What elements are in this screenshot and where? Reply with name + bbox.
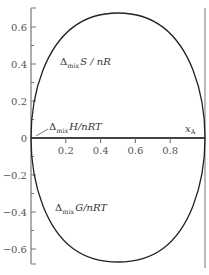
y-tick-label: 0.6	[11, 22, 27, 33]
y-tick-label: 0.2	[11, 96, 27, 107]
y-tick-label: −0.6	[3, 244, 27, 255]
enthalpy-label: ΔmixH/nRT	[49, 121, 103, 135]
gibbs-curve	[31, 138, 205, 262]
entropy-label: ΔmixS / nR	[60, 56, 111, 70]
x-tick-label: 0.4	[93, 145, 109, 156]
mixing-functions-chart: 0.6 0.4 0.2 0 −0.2 −0.4 −0.6 0.2 0.4 0.6…	[0, 0, 209, 275]
entropy-curve	[31, 13, 205, 138]
x-tick-label: 0.2	[58, 145, 74, 156]
y-tick-label: 0.4	[11, 59, 27, 70]
x-axis-label: xA	[185, 123, 196, 136]
y-tick-label: −0.4	[3, 207, 27, 218]
x-tick-label: 0.6	[127, 145, 143, 156]
y-tick-label: 0	[21, 133, 27, 144]
gibbs-label: ΔmixG/nRT	[55, 202, 108, 216]
y-tick-label: −0.2	[3, 170, 27, 181]
y-ticks	[31, 8, 36, 264]
enthalpy-label-pointer	[36, 129, 48, 136]
x-tick-label: 0.8	[162, 145, 178, 156]
